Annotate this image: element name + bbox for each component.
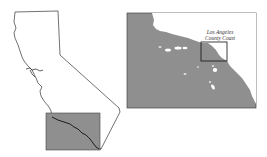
island [213,68,217,72]
island [183,47,188,50]
island [184,73,187,75]
map-canvas [0,0,267,157]
island [159,46,162,48]
study-area-label: Los Angeles County Coast [205,29,235,41]
study-area-label-line2: County Coast [205,35,235,41]
inset-map [127,13,256,108]
island [212,65,214,67]
island [165,49,171,52]
island [175,47,182,50]
island [209,81,211,83]
southern-california-highlight-box [46,113,101,150]
island [197,66,199,68]
